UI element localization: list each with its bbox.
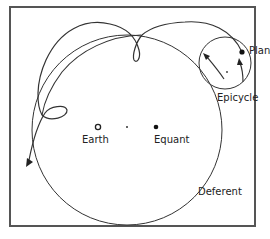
- planet-dot: [239, 49, 244, 54]
- earth-label: Earth: [82, 135, 109, 145]
- planet-trajectory: [29, 22, 242, 160]
- epicycle-center-dot: [226, 71, 228, 73]
- epicycle-arrow-right-head-icon: [237, 58, 243, 65]
- planet-label: Planet: [249, 46, 270, 56]
- deferent-circle: [32, 35, 222, 225]
- equant-label: Equant: [154, 135, 189, 145]
- epicycle-label: Epicycle: [217, 93, 258, 103]
- epicycle-arrow-left: [207, 57, 224, 79]
- diagram-canvas: [0, 0, 270, 239]
- earth-marker: [95, 124, 100, 129]
- deferent-label: Deferent: [198, 187, 242, 197]
- trajectory-inner-arc: [42, 35, 141, 115]
- equant-marker: [154, 125, 159, 130]
- deferent-center-dot: [126, 126, 128, 128]
- epicycle-arrow-right: [240, 63, 243, 82]
